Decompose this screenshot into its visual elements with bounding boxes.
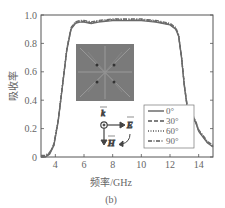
y-axis-label: 吸收率 <box>7 71 19 101</box>
x-tick-label: 10 <box>136 159 146 170</box>
k-label: k <box>101 108 106 118</box>
legend-label: 0° <box>166 106 175 116</box>
absorption-chart: 00.20.40.60.81.0 468101214 k E H 0°3 <box>0 0 225 208</box>
x-tick-label: 6 <box>82 159 87 170</box>
y-tick-label: 0.6 <box>25 66 38 77</box>
x-axis: 468101214 <box>53 154 204 170</box>
x-tick-label: 12 <box>165 159 175 170</box>
legend-label: 60° <box>166 126 179 136</box>
legend: 0°30°60°90° <box>144 105 194 148</box>
y-tick-label: 0.4 <box>25 95 38 106</box>
x-axis-label: 频率/GHz <box>90 176 132 188</box>
figure-caption: (b) <box>105 194 117 206</box>
e-label: E <box>126 120 133 130</box>
h-arrow-icon <box>101 140 107 145</box>
x-tick-label: 14 <box>194 159 204 170</box>
x-tick-label: 4 <box>53 159 58 170</box>
x-tick-label: 8 <box>110 159 115 170</box>
e-arrow-icon <box>120 122 125 128</box>
legend-label: 90° <box>166 136 179 146</box>
y-tick-label: 0.8 <box>25 38 38 49</box>
y-tick-label: 0 <box>32 152 37 163</box>
inset-unit-cell <box>76 44 134 101</box>
y-tick-label: 1.0 <box>25 10 38 21</box>
h-label: H <box>107 138 115 148</box>
y-tick-label: 0.2 <box>25 123 38 134</box>
polarization-indicator: k E H <box>100 107 134 148</box>
legend-label: 30° <box>166 116 179 126</box>
